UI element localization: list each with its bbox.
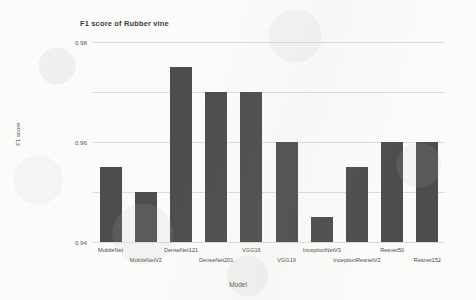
- x-axis-tick-label: Resnet152: [414, 257, 441, 263]
- bar: [346, 167, 368, 242]
- x-axis-tick-label: VGG16: [242, 247, 261, 253]
- y-axis-tick-label: 0.98: [75, 39, 87, 46]
- x-axis-tick-label: InceptionResnetV2: [333, 257, 380, 263]
- x-axis-tick-label: InceptionNetV3: [303, 247, 341, 253]
- y-axis-title: F1 score: [15, 104, 21, 164]
- x-axis-tick-label: VGG19: [277, 257, 296, 263]
- bar: [135, 192, 157, 242]
- gridline: 0.9: [93, 242, 445, 243]
- bar: [205, 92, 227, 242]
- bar: [100, 167, 122, 242]
- gridline: 0.96: [93, 92, 445, 93]
- bar: [276, 142, 298, 242]
- x-axis-tick-label: DenseNet121: [164, 247, 198, 253]
- y-axis-tick-label: 0.94: [75, 239, 87, 246]
- chart-title: F1 score of Rubber vine: [80, 19, 169, 28]
- y-axis-tick-label: 0.96: [75, 139, 87, 146]
- bar: [381, 142, 403, 242]
- gridline: 0.98: [93, 42, 445, 43]
- x-axis-tick-label: MobileNet: [98, 247, 123, 253]
- bar-chart-figure: F1 score of Rubber vine F1 score 0.90.92…: [0, 0, 476, 300]
- bar: [170, 67, 192, 242]
- bar: [240, 92, 262, 242]
- bar: [311, 217, 333, 242]
- x-axis-tick-label: Resnet50: [380, 247, 404, 253]
- plot-area: 0.90.920.940.960.98: [93, 42, 445, 242]
- x-axis-title: Model: [0, 281, 476, 288]
- x-axis-tick-label: DenseNet201: [199, 257, 233, 263]
- bar: [416, 142, 438, 242]
- x-axis-tick-label: MobileNetV2: [130, 257, 162, 263]
